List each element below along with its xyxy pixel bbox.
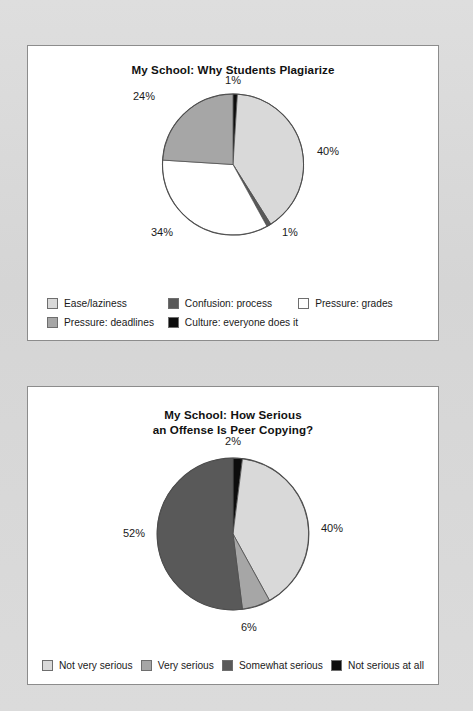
legend-swatch-icon (141, 660, 152, 671)
pie-graphic (154, 455, 312, 613)
pie-label-confusion-process: 1% (282, 226, 298, 238)
legend-item-somewhat-serious[interactable]: Somewhat serious (222, 660, 323, 671)
legend-swatch-icon (42, 660, 53, 671)
legend-item-confusion-process[interactable]: Confusion: process (168, 298, 298, 309)
legend-label: Confusion: process (185, 298, 272, 309)
pie-svg-peer-copying (154, 455, 312, 613)
pie-label-very-serious: 6% (241, 621, 257, 633)
legend-item-very-serious[interactable]: Very serious (141, 660, 214, 671)
legend-plagiarize: Ease/laziness Confusion: process Pressur… (28, 298, 438, 328)
legend-swatch-icon (331, 660, 342, 671)
chart-title-peer-copying: My School: How Serious an Offense Is Pee… (28, 407, 438, 437)
legend-swatch-icon (298, 298, 309, 309)
pie-chart-peer-copying: 2% 40% 6% 52% (28, 445, 438, 641)
pie-label-not-serious-at-all: 2% (225, 435, 241, 447)
legend-swatch-icon (168, 317, 179, 328)
legend-item-pressure-grades[interactable]: Pressure: grades (298, 298, 419, 309)
legend-label: Not very serious (59, 660, 133, 671)
pie-label-pressure-deadlines: 24% (133, 90, 155, 102)
legend-label: Not serious at all (348, 660, 424, 671)
legend-swatch-icon (168, 298, 179, 309)
pie-label-not-very-serious: 40% (321, 522, 343, 534)
legend-item-not-serious-at-all[interactable]: Not serious at all (331, 660, 424, 671)
legend-item-pressure-deadlines[interactable]: Pressure: deadlines (47, 317, 168, 328)
legend-label: Ease/laziness (64, 298, 127, 309)
legend-item-culture-everyone-does-it[interactable]: Culture: everyone does it (168, 317, 298, 328)
pie-slice-pressure-deadlines (163, 94, 233, 165)
pie-slice-somewhat-serious (157, 458, 242, 610)
pie-graphic (160, 91, 307, 238)
chart-title-line: My School: How Serious (28, 407, 438, 422)
legend-peer-copying: Not very serious Very serious Somewhat s… (28, 660, 438, 671)
pie-label-culture: 1% (225, 74, 241, 86)
pie-label-somewhat-serious: 52% (123, 527, 145, 539)
pie-svg-plagiarize (160, 91, 307, 238)
legend-label: Culture: everyone does it (185, 317, 298, 328)
legend-label: Very serious (158, 660, 214, 671)
legend-swatch-icon (222, 660, 233, 671)
chart-panel-plagiarize: My School: Why Students Plagiarize 1% 40… (27, 45, 439, 341)
pie-label-pressure-grades: 34% (151, 226, 173, 238)
legend-swatch-icon (47, 298, 58, 309)
legend-swatch-icon (47, 317, 58, 328)
pie-chart-plagiarize: 1% 40% 1% 34% 24% (28, 83, 438, 261)
pie-label-ease-laziness: 40% (317, 145, 339, 157)
chart-panel-peer-copying: My School: How Serious an Offense Is Pee… (27, 386, 439, 685)
legend-label: Pressure: grades (315, 298, 393, 309)
legend-label: Somewhat serious (239, 660, 323, 671)
legend-item-not-very-serious[interactable]: Not very serious (42, 660, 133, 671)
legend-label: Pressure: deadlines (64, 317, 154, 328)
legend-item-ease-laziness[interactable]: Ease/laziness (47, 298, 168, 309)
